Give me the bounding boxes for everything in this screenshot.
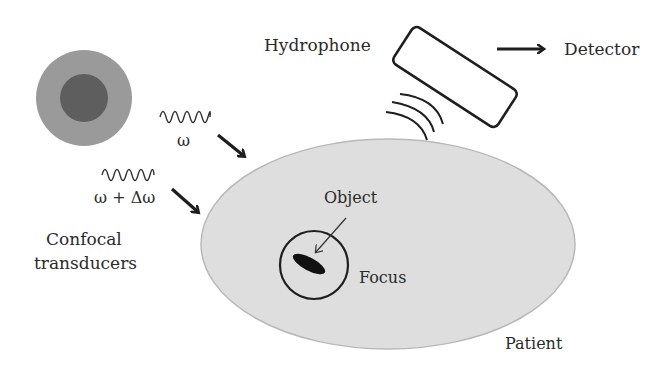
focus-label: Focus: [359, 270, 406, 286]
omega-label: ω: [177, 133, 190, 149]
hydrophone-label: Hydrophone: [264, 37, 371, 54]
patient-label: Patient: [505, 336, 562, 352]
hydrophone-device: [391, 25, 519, 129]
object-label: Object: [324, 190, 377, 206]
confocal-label-line1: Confocal: [46, 231, 122, 248]
diagram-canvas: Hydrophone Detector ω ω + Δω Confocal tr…: [0, 0, 671, 369]
detector-label: Detector: [564, 41, 639, 58]
arrow-omega-delta-icon: [172, 189, 198, 212]
patient-body: [201, 139, 575, 349]
confocal-label-line2: transducers: [34, 255, 137, 272]
sound-waves-icon: [386, 94, 443, 140]
confocal-transducer-icon: [36, 50, 132, 146]
arrow-omega-icon: [218, 135, 244, 156]
wave-omega-icon: [160, 112, 210, 123]
omega-delta-label: ω + Δω: [94, 190, 155, 206]
wave-omega-delta-icon: [102, 170, 154, 181]
